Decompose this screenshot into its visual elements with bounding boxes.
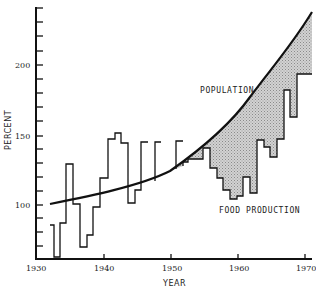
x-tick-label-1970: 1970 [296, 264, 316, 273]
x-tick-label-1930: 1930 [26, 264, 46, 273]
food-production-label: FOOD PRODUCTION [219, 206, 300, 215]
population-label: POPULATION [200, 86, 254, 95]
y-tick-label-200: 200 [15, 61, 30, 70]
x-tick-label-1940: 1940 [94, 264, 114, 273]
x-tick-label-1960: 1960 [229, 264, 249, 273]
y-ticks [36, 8, 43, 246]
chart: 200 150 100 1930 1940 1950 1960 1970 YEA… [0, 0, 316, 294]
x-tick-label-1950: 1950 [162, 264, 182, 273]
x-axis-title: YEAR [162, 279, 186, 288]
shaded-gap-region [170, 12, 312, 199]
y-tick-label-100: 100 [15, 201, 30, 210]
y-tick-label-150: 150 [15, 132, 30, 141]
y-axis-title: PERCENT [4, 110, 13, 150]
